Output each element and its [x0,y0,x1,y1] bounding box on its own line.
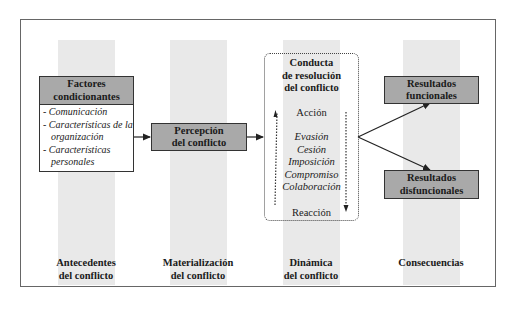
functional-line2: funcionales [385,90,478,103]
dysfunctional-results-box: Resultados disfuncionales [384,170,479,199]
perception-line2: del conflicto [152,137,246,150]
perception-box: Percepción del conflicto [151,123,247,151]
stage-label-line2: del conflicto [148,270,248,283]
stage-label-antecedents: Antecedentes del conflicto [36,257,136,282]
factors-list: - Comunicación - Características de la o… [40,105,133,169]
dysfunctional-line2: disfuncionales [385,185,478,198]
stage-label-line1: Dinámica [261,257,361,270]
conduct-style: Cesión [264,144,359,157]
stage-label-line2: del conflicto [261,270,361,283]
conduct-style: Evasión [264,131,359,144]
conduct-top-label: Acción [264,107,359,120]
factors-title-line1: Factores [40,78,133,91]
factor-item: - Características personales [43,144,133,169]
conduct-bottom-label: Reacción [264,207,359,220]
stage-label-consequences: Consecuencias [381,257,481,270]
stage-label-line1: Antecedentes [36,257,136,270]
conduct-title-line3: del conflicto [264,82,359,95]
conduct-styles-list: Evasión Cesión Imposición Compromiso Col… [264,131,359,194]
factor-item: - Características de la organización [43,119,133,144]
stage-label-line2: del conflicto [36,270,136,283]
factors-title-line2: condicionantes [40,91,133,104]
factors-box: Factores condicionantes - Comunicación -… [39,76,134,172]
stage-label-materialization: Materialización del conflicto [148,257,248,282]
functional-line1: Resultados [385,78,478,91]
conduct-style: Imposición [264,156,359,169]
conduct-style: Compromiso [264,169,359,182]
conduct-title-line1: Conducta [264,57,359,70]
functional-results-box: Resultados funcionales [384,76,479,104]
dysfunctional-line1: Resultados [385,172,478,185]
stage-label-dynamics: Dinámica del conflicto [261,257,361,282]
conduct-title-line2: de resolución [264,70,359,83]
conduct-title: Conducta de resolución del conflicto [264,57,359,95]
perception-line1: Percepción [152,125,246,138]
stage-label-line1: Materialización [148,257,248,270]
stage-label-line1: Consecuencias [381,257,481,270]
factor-item: - Comunicación [43,106,133,119]
factors-header: Factores condicionantes [40,77,133,105]
conduct-style: Colaboración [264,181,359,194]
